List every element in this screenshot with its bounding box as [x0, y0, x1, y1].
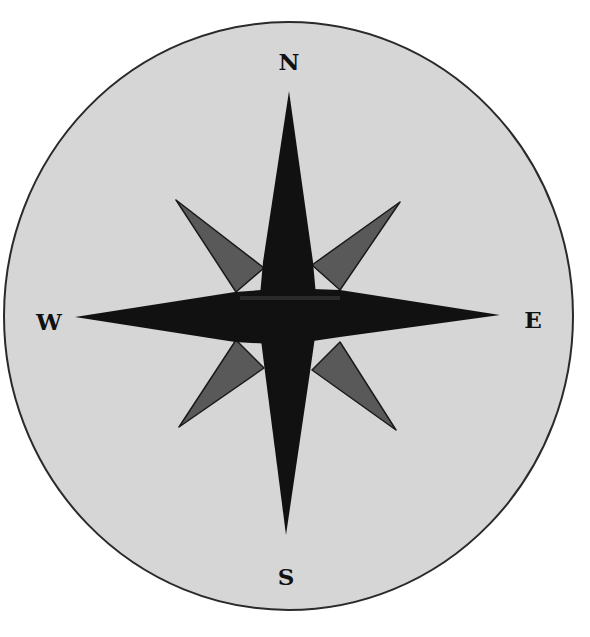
compass-svg: N E S W [0, 0, 590, 637]
center-highlight [240, 296, 340, 300]
compass-rose-diagram: N E S W [0, 0, 590, 637]
label-north: N [278, 48, 299, 75]
label-west: W [35, 308, 63, 335]
label-east: E [524, 306, 542, 333]
label-south: S [278, 563, 295, 590]
